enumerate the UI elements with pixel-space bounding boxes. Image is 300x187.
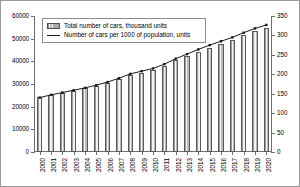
bar — [150, 70, 155, 152]
x-axis-tick-label: 2019 — [255, 158, 261, 172]
x-axis-tick-label: 2007 — [119, 158, 125, 172]
bar — [173, 60, 178, 152]
line-marker — [197, 48, 199, 50]
bar — [264, 28, 269, 152]
bar-swatch-icon — [47, 23, 60, 29]
y-axis-left-tick-label: 20000 — [12, 104, 29, 110]
y-axis-left-tick — [31, 39, 35, 40]
line-swatch-icon — [47, 32, 60, 38]
bar — [94, 86, 99, 152]
y-axis-right-tick-label: 300 — [277, 32, 288, 38]
x-axis-tick-label: 2002 — [62, 158, 68, 172]
legend-label-bars: Total number of cars, thousand units — [64, 22, 201, 30]
bar — [60, 93, 65, 152]
bar — [162, 66, 167, 152]
bar — [128, 75, 133, 152]
y-axis-left-tick — [31, 129, 35, 130]
legend-item-bars: Total number of cars, thousand units — [47, 22, 201, 30]
line-marker — [231, 36, 233, 38]
y-axis-right-tick-label: 250 — [277, 52, 288, 58]
y-axis-right-tick — [271, 113, 275, 114]
bar — [48, 95, 53, 152]
y-axis-right-tick — [271, 94, 275, 95]
x-axis-tick-label: 2004 — [85, 158, 91, 172]
x-axis-tick-label: 2005 — [96, 158, 102, 172]
y-axis-right-tick-label: 100 — [277, 110, 288, 116]
y-axis-right-tick — [271, 152, 275, 153]
line-marker — [186, 53, 188, 55]
bar — [82, 88, 87, 152]
y-axis-left-tick — [31, 152, 35, 153]
y-axis-right-tick-label: 0 — [277, 149, 281, 155]
y-axis-right-tick-label: 200 — [277, 71, 288, 77]
x-axis-tick-label: 2009 — [142, 158, 148, 172]
y-axis-right-tick — [271, 55, 275, 56]
line-marker — [220, 40, 222, 42]
bar — [218, 44, 223, 152]
y-axis-left-tick-label: 30000 — [12, 81, 29, 87]
x-axis-tick-label: 2018 — [244, 158, 250, 172]
x-axis-tick-label: 2013 — [187, 158, 193, 172]
y-axis-left-tick — [31, 84, 35, 85]
x-axis-tick-label: 2006 — [108, 158, 114, 172]
x-axis-tick-label: 2011 — [164, 158, 170, 172]
x-axis-tick-label: 2000 — [40, 158, 46, 172]
y-axis-left-tick-label: 10000 — [12, 126, 29, 132]
x-axis-tick-label: 2001 — [51, 158, 57, 172]
x-axis-tick-label: 2014 — [198, 158, 204, 172]
y-axis-left-tick — [31, 61, 35, 62]
x-axis-tick-label: 2016 — [221, 158, 227, 172]
y-axis-right-tick — [271, 16, 275, 17]
y-axis-left-tick-label: 0 — [26, 149, 29, 155]
y-axis-left-tick — [31, 16, 35, 17]
y-axis-right-tick — [271, 133, 275, 134]
line-marker — [208, 44, 210, 46]
bar — [207, 48, 212, 152]
x-axis-tick-label: 2003 — [74, 158, 80, 172]
bar — [139, 73, 144, 152]
y-axis-left-tick-label: 50000 — [12, 36, 29, 42]
line-marker — [242, 32, 244, 34]
x-axis-tick-label: 2015 — [210, 158, 216, 172]
chart-container: 0100002000030000400005000060000 05010015… — [0, 0, 300, 187]
bar — [71, 91, 76, 152]
bar — [184, 56, 189, 152]
legend-label-line: Number of cars per 1000 of population, u… — [64, 31, 201, 39]
legend-item-line: Number of cars per 1000 of population, u… — [47, 31, 201, 39]
y-axis-right-tick — [271, 74, 275, 75]
bar — [230, 40, 235, 152]
y-axis-right-tick-label: 150 — [277, 91, 288, 97]
x-axis-tick-label: 2017 — [232, 158, 238, 172]
x-axis-tick-label: 2012 — [176, 158, 182, 172]
x-axis-tick-label: 2008 — [130, 158, 136, 172]
bar — [105, 83, 110, 152]
x-axis-tick-label: 2010 — [153, 158, 159, 172]
y-axis-left-tick-label: 40000 — [12, 58, 29, 64]
line-marker — [254, 27, 256, 29]
chart-legend: Total number of cars, thousand units Num… — [42, 18, 206, 43]
bar — [252, 31, 257, 152]
y-axis-left-tick-label: 60000 — [12, 13, 29, 19]
bar — [116, 79, 121, 152]
x-axis-tick-label: 2020 — [266, 158, 272, 172]
bar — [196, 52, 201, 152]
y-axis-right-tick — [271, 35, 275, 36]
line-marker — [265, 24, 267, 26]
y-axis-right-tick-label: 350 — [277, 13, 288, 19]
bar — [241, 35, 246, 152]
y-axis-right-tick-label: 50 — [277, 130, 284, 136]
y-axis-left-tick — [31, 107, 35, 108]
bar — [37, 97, 42, 152]
